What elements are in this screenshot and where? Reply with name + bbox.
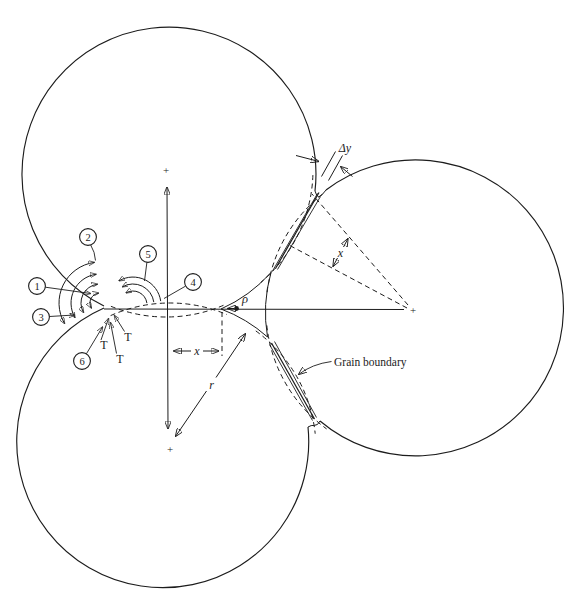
angle-arcs-left-family: [59, 262, 99, 323]
sintering-grains-diagram: + + + T T T 1 2 3 4 5: [0, 0, 577, 608]
grain-boundary-arrow: [299, 362, 332, 375]
x-arrow-upper-seg: [333, 258, 338, 267]
callout-leader-1: [45, 287, 90, 293]
grain-circle-bottom-left: [17, 308, 309, 588]
callout-leader-3: [49, 315, 74, 317]
callout-number: 4: [190, 277, 196, 288]
angle-arc: [123, 284, 154, 302]
dashed-reference-lines: [222, 194, 408, 356]
grain-boundary-annotation: Grain boundary: [299, 356, 407, 375]
radial-dashed-line-inner: [287, 244, 407, 308]
r-label: r: [209, 378, 214, 392]
angle-arc: [81, 284, 97, 312]
delta-y-measurement: Δy: [296, 141, 353, 181]
callout-number: 5: [145, 249, 150, 260]
callout-number: 1: [34, 281, 39, 292]
r-arrow-seg: [216, 334, 246, 378]
grain-boundary-label: Grain boundary: [334, 356, 407, 369]
x-arrow-upper-seg: [344, 239, 349, 248]
angle-arcs-right-family: [119, 277, 161, 303]
tension-label: T: [116, 352, 124, 366]
tension-label: T: [100, 338, 108, 352]
surface-tension-vectors: T T T: [100, 316, 132, 367]
undeformed-sphere-lenses: [111, 175, 327, 434]
neck-surface-lower-right-a: [270, 345, 313, 421]
tension-arrow: [101, 319, 109, 341]
center-mark-right: +: [410, 304, 416, 316]
x-label-upper: x: [337, 246, 344, 260]
delta-y-arrow-right: [341, 167, 353, 177]
lens-upper-right-sideA-dashed: [261, 175, 313, 283]
callout-number: 2: [85, 232, 90, 243]
delta-y-label: Δy: [338, 141, 352, 155]
grain-boundary-upper-right: [276, 193, 320, 269]
pore-curvature-annotation: ρ: [228, 292, 249, 311]
callout-number: 3: [38, 312, 43, 323]
center-mark-top-left: +: [163, 164, 169, 176]
lens-upper-right-sideC-dashed: [267, 194, 323, 294]
angle-arc: [119, 277, 161, 301]
rho-label: ρ: [241, 292, 248, 306]
grain-boundaries: [270, 193, 321, 421]
neck-width-upper-measurement: x: [333, 239, 348, 267]
center-axes: [104, 187, 404, 429]
tension-label: T: [124, 330, 132, 344]
neck-width-lower-measurement: x: [174, 344, 220, 358]
grain-radius-measurement: r: [176, 334, 246, 437]
horizontal-axis: [104, 309, 404, 310]
rho-dot: [234, 306, 239, 311]
center-mark-bottom-left: +: [167, 443, 173, 455]
tension-arrow: [115, 316, 125, 332]
lens-left-lower-dashed: [111, 304, 226, 317]
x-label-lower: x: [193, 344, 200, 358]
grain-outlines: [17, 27, 564, 588]
neck-surface-upper-right-a: [273, 194, 318, 272]
vertical-axis: [167, 187, 168, 429]
angle-arc: [126, 291, 147, 303]
grain-boundary-lower-right: [272, 343, 315, 419]
callout-leader-5: [145, 262, 147, 281]
neck-surface-lower-right-b: [275, 342, 317, 418]
callouts: 1 2 3 4 5 6: [29, 229, 202, 370]
tension-arrow: [111, 323, 117, 354]
grain-circle-right: [320, 160, 563, 456]
r-arrow-seg: [176, 391, 207, 437]
callout-number: 6: [79, 356, 84, 367]
callout-leader-2: [91, 245, 96, 261]
radial-dashed-line-outer: [312, 194, 408, 305]
figure-canvas: + + + T T T 1 2 3 4 5: [0, 0, 577, 608]
